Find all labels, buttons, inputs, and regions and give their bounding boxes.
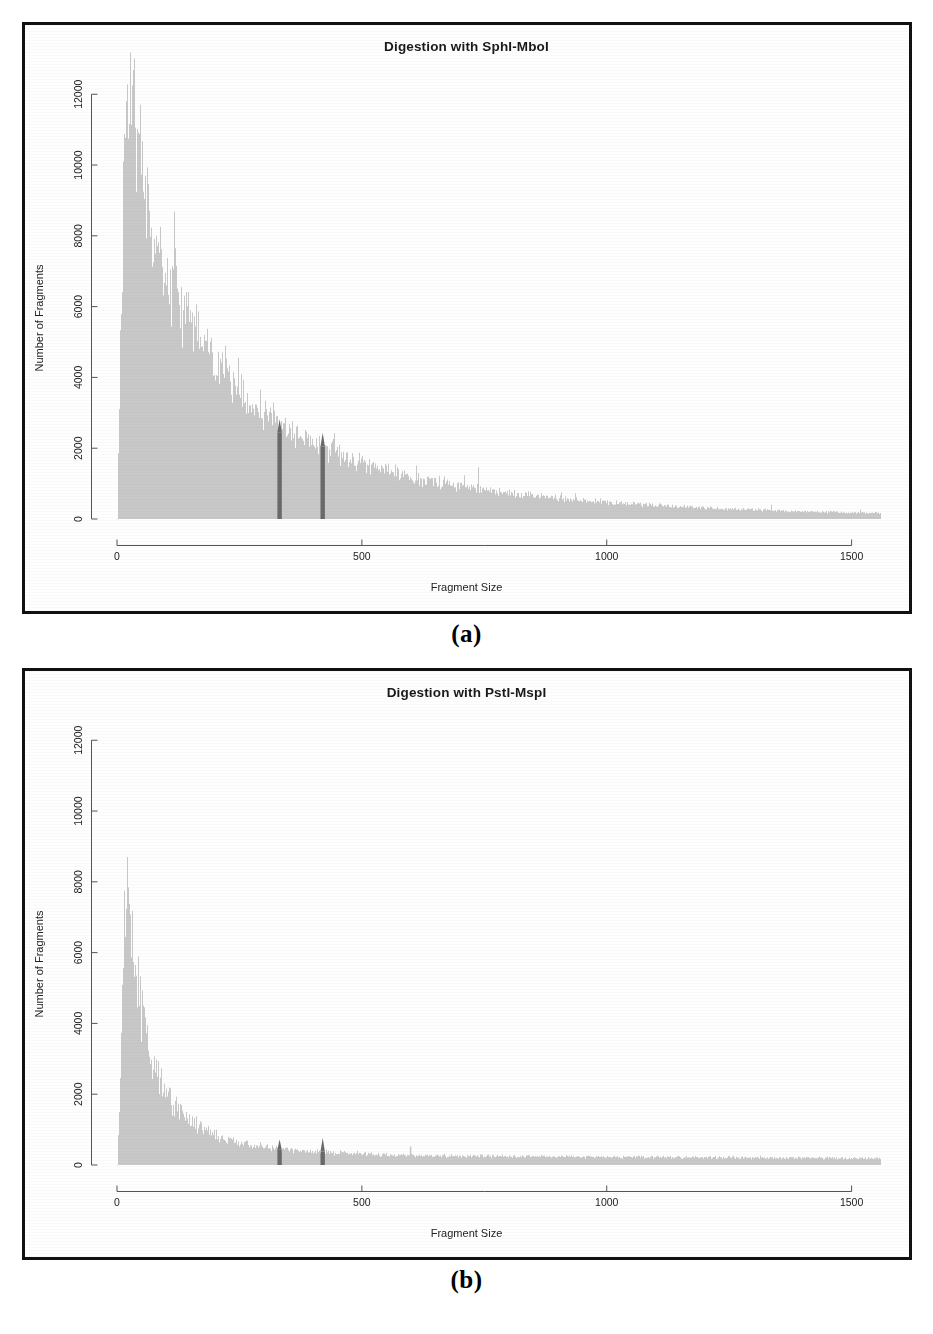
panel-a-caption: (a) xyxy=(0,618,933,650)
panel-b-caption: (b) xyxy=(0,1264,933,1296)
histogram-canvas-b xyxy=(25,671,909,1257)
histogram-canvas-a xyxy=(25,25,909,611)
panel-b-title: Digestion with PstI-MspI xyxy=(25,685,909,700)
panel-a-frame: Digestion with SphI-MboI Number of Fragm… xyxy=(22,22,912,614)
panel-a-xaxis-title: Fragment Size xyxy=(25,581,909,593)
panel-a-yaxis-title-wrap: Number of Fragments xyxy=(37,25,55,611)
panel-b-xaxis-title: Fragment Size xyxy=(25,1227,909,1239)
panel-a-title: Digestion with SphI-MboI xyxy=(25,39,909,54)
figure-container: Digestion with SphI-MboI Number of Fragm… xyxy=(0,0,933,1334)
figure-panel-b: Digestion with PstI-MspI Number of Fragm… xyxy=(0,668,933,1296)
panel-b-yaxis-title-wrap: Number of Fragments xyxy=(37,671,55,1257)
panel-b-frame: Digestion with PstI-MspI Number of Fragm… xyxy=(22,668,912,1260)
figure-panel-a: Digestion with SphI-MboI Number of Fragm… xyxy=(0,22,933,650)
